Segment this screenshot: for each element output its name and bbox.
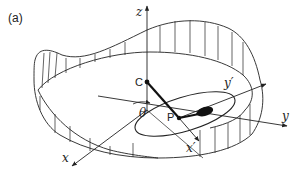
x-prime-label: x′	[186, 141, 196, 155]
y-prime-label: y′	[223, 76, 234, 90]
x-prime-axis	[179, 118, 199, 141]
z-axis-label: z	[135, 5, 143, 19]
point-c	[145, 80, 150, 85]
diagram-figure: (a)	[0, 0, 301, 176]
x-axis	[72, 110, 147, 166]
y-axis	[98, 96, 287, 126]
y-prime-axis	[179, 84, 266, 118]
point-c-label: C	[135, 76, 143, 88]
body-arm	[179, 114, 199, 118]
x-axis-label: x	[62, 151, 69, 165]
y-axis-label: y	[281, 109, 289, 123]
panel-label: (a)	[8, 11, 23, 25]
point-p-label: P	[167, 111, 174, 123]
body-blob	[196, 106, 213, 116]
